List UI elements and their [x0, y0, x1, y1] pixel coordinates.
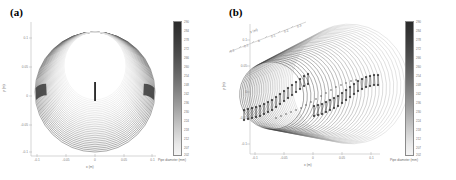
cb-b-t15: 202	[416, 153, 421, 157]
cb-a-t4: 266	[184, 56, 189, 60]
panel-a-ytick-2: 0	[22, 94, 28, 98]
cb-a-t13: 212	[184, 137, 189, 141]
panel-a: (a)	[0, 0, 228, 180]
cb-a-t6: 254	[184, 74, 189, 78]
panel-a-center-marker	[94, 82, 96, 101]
cb-a-t9: 236	[184, 101, 189, 105]
panel-b-ytick-1: 0.05	[234, 64, 247, 68]
cb-b-t2: 278	[416, 38, 421, 42]
panel-a-xtick-1: -0.05	[58, 158, 74, 162]
panel-a-xtick-0: -0.1	[30, 158, 44, 162]
cb-b-t9: 236	[416, 101, 421, 105]
cb-a-t11: 224	[184, 119, 189, 123]
cb-a-t15: 202	[184, 153, 189, 157]
panel-b-ytick-2: 0	[241, 90, 247, 94]
cb-a-t2: 278	[184, 38, 189, 42]
panel-a-ytick-0: 0.1	[18, 36, 28, 40]
panel-b-colorbar-gradient	[405, 21, 414, 156]
cb-b-t11: 224	[416, 119, 421, 123]
panel-a-axes	[29, 22, 156, 157]
cb-a-t1: 284	[184, 29, 189, 33]
cb-b-t3: 272	[416, 47, 421, 51]
panel-a-ytick-4: -0.1	[17, 150, 28, 154]
cb-b-t14: 207	[416, 146, 421, 150]
panel-b-colorbar-title: Pipe diameter (mm)	[390, 158, 418, 162]
panel-a-xtick-3: 0.05	[116, 158, 132, 162]
panel-b-colorbar[interactable]	[405, 21, 414, 156]
cb-a-t14: 207	[184, 146, 189, 150]
cb-b-t12: 218	[416, 128, 421, 132]
cb-a-t0: 290	[184, 20, 189, 24]
cb-b-t10: 230	[416, 110, 421, 114]
cb-b-t8: 242	[416, 92, 421, 96]
panel-a-ytick-3: -0.05	[14, 123, 28, 127]
cb-a-t10: 230	[184, 110, 189, 114]
panel-a-colorbar-title: Pipe diameter (mm)	[158, 158, 186, 162]
panel-a-ytick-1: 0.05	[15, 65, 28, 69]
panel-b-ytick-0: 0.1	[237, 38, 247, 42]
panel-a-plot	[0, 0, 228, 180]
panel-a-xaxis-title: x (m)	[86, 165, 94, 169]
panel-b-yaxis-title: y (m)	[222, 82, 226, 90]
panel-b-plot	[228, 0, 456, 180]
panel-b-ring-family	[232, 11, 421, 157]
panel-b-xtick-1: -0.05	[276, 156, 292, 160]
cb-a-t8: 242	[184, 92, 189, 96]
cb-a-t3: 272	[184, 47, 189, 51]
panel-b: (b)	[228, 0, 456, 180]
panel-b-xtick-0: -0.1	[248, 156, 262, 160]
cb-b-t1: 284	[416, 29, 421, 33]
cb-b-t6: 254	[416, 74, 421, 78]
cb-a-t7: 248	[184, 83, 189, 87]
panel-b-xtick-2: 0	[309, 156, 317, 160]
cb-b-t4: 266	[416, 56, 421, 60]
panel-b-xtick-4: 0.1	[365, 156, 378, 160]
cb-b-t5: 260	[416, 65, 421, 69]
cb-b-t13: 212	[416, 137, 421, 141]
cb-a-t5: 260	[184, 65, 189, 69]
cb-a-t12: 218	[184, 128, 189, 132]
panel-a-yaxis-title: y (m)	[2, 84, 6, 92]
panel-b-xtick-3: 0.05	[334, 156, 350, 160]
panel-a-colorbar-gradient	[173, 21, 182, 156]
panel-a-xtick-2: 0	[91, 158, 99, 162]
cb-b-t7: 248	[416, 83, 421, 87]
panel-a-colorbar[interactable]	[173, 21, 182, 156]
figure-container: (a)	[0, 0, 456, 180]
panel-b-ytick-4: -0.1	[236, 142, 247, 146]
cb-b-t0: 290	[416, 20, 421, 24]
panel-b-ytick-3: -0.05	[233, 116, 247, 120]
panel-b-xaxis-title: x (m)	[304, 163, 312, 167]
